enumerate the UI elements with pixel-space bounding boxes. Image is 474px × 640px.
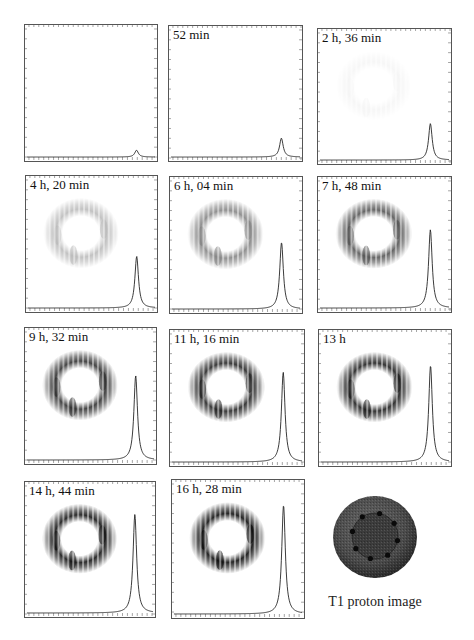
spectrum-peak (320, 124, 449, 160)
spectrum-plot (318, 29, 451, 164)
ring-image (42, 350, 118, 421)
image-panel: 6 h, 04 min (169, 176, 303, 314)
t1-proton-image-label: T1 proton image (315, 594, 435, 610)
spectrum-plot (318, 177, 451, 312)
image-panel: 13 h (318, 329, 452, 467)
ring-image (43, 198, 119, 269)
spectrum-plot (172, 480, 304, 618)
spectrum-peak (27, 150, 155, 157)
image-panel: 52 min (168, 25, 303, 162)
t1-proton-image (331, 493, 419, 585)
t1-proton-disc (331, 493, 419, 581)
timepoint-label: 52 min (173, 27, 209, 43)
image-panel: 11 h, 16 min (169, 329, 305, 467)
spectrum-plot (170, 177, 302, 313)
timepoint-label: 16 h, 28 min (176, 481, 242, 497)
image-panel: 14 h, 44 min (24, 481, 156, 618)
spectrum-plot (26, 176, 157, 312)
timepoint-label: 7 h, 48 min (322, 178, 381, 194)
timepoint-label: 14 h, 44 min (29, 483, 95, 499)
ring-image (336, 352, 413, 423)
ring-image (42, 504, 117, 574)
timepoint-label: 6 h, 04 min (174, 178, 233, 194)
image-panel: 9 h, 32 min (24, 327, 157, 465)
ring-image (335, 51, 412, 121)
ring-image (335, 199, 412, 269)
ring-image (187, 199, 264, 270)
timepoint-label: 4 h, 20 min (30, 177, 89, 193)
image-panel: 4 h, 20 min (25, 175, 158, 313)
ring-image (187, 352, 265, 423)
timepoint-label: 11 h, 16 min (174, 331, 239, 347)
ring-image (189, 502, 266, 574)
spectrum-plot (25, 25, 157, 161)
image-panel (24, 24, 158, 162)
spectrum-plot (25, 482, 155, 617)
spectrum-plot (319, 330, 451, 466)
spectrum-plot (169, 26, 302, 161)
image-panel: 7 h, 48 min (317, 176, 452, 313)
image-panel: 2 h, 36 min (317, 28, 452, 165)
spectrum-plot (25, 328, 156, 464)
spectrum-peak (171, 138, 300, 157)
image-panel: 16 h, 28 min (171, 479, 305, 619)
timepoint-label: 13 h (323, 331, 346, 347)
spectrum-plot (170, 330, 304, 466)
timepoint-label: 9 h, 32 min (29, 329, 88, 345)
timepoint-label: 2 h, 36 min (322, 30, 381, 46)
